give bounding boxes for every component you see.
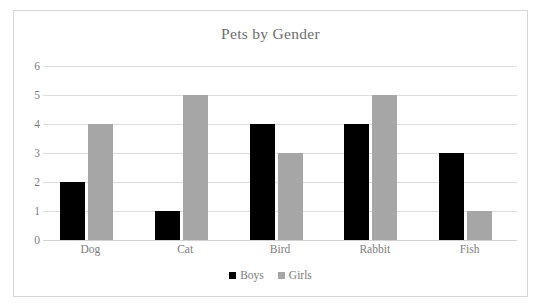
plot-area xyxy=(43,66,517,240)
legend-swatch-boys-icon xyxy=(229,272,236,279)
legend-item-girls[interactable]: Girls xyxy=(278,269,312,281)
legend-swatch-girls-icon xyxy=(278,272,285,279)
legend-label-boys: Boys xyxy=(240,269,264,281)
legend-item-boys[interactable]: Boys xyxy=(229,269,264,281)
x-tick-label-cat: Cat xyxy=(138,243,233,255)
bar-fish-girls xyxy=(467,211,492,240)
bar-cat-girls xyxy=(183,95,208,240)
bar-fish-boys xyxy=(439,153,464,240)
x-axis: DogCatBirdRabbitFish xyxy=(43,243,517,263)
bar-group-dog xyxy=(60,66,113,240)
bars-layer xyxy=(43,66,517,240)
bar-rabbit-girls xyxy=(372,95,397,240)
y-tick-label-3: 3 xyxy=(18,147,40,159)
chart-container: Pets by Gender 0123456 DogCatBirdRabbitF… xyxy=(13,10,528,297)
y-tick-label-4: 4 xyxy=(18,118,40,130)
y-tick-label-0: 0 xyxy=(18,234,40,246)
bar-group-rabbit xyxy=(344,66,397,240)
y-tick-label-6: 6 xyxy=(18,60,40,72)
bar-dog-girls xyxy=(88,124,113,240)
bar-cat-boys xyxy=(155,211,180,240)
bar-group-fish xyxy=(439,66,492,240)
y-axis: 0123456 xyxy=(14,66,40,240)
x-tick-label-bird: Bird xyxy=(233,243,328,255)
y-tick-label-5: 5 xyxy=(18,89,40,101)
y-tick-label-1: 1 xyxy=(18,205,40,217)
bar-dog-boys xyxy=(60,182,85,240)
bar-group-cat xyxy=(155,66,208,240)
chart-title: Pets by Gender xyxy=(14,25,527,43)
y-tick-label-2: 2 xyxy=(18,176,40,188)
x-tick-label-rabbit: Rabbit xyxy=(327,243,422,255)
bar-bird-girls xyxy=(278,153,303,240)
bar-group-bird xyxy=(250,66,303,240)
chart-legend: BoysGirls xyxy=(14,269,527,281)
legend-label-girls: Girls xyxy=(289,269,312,281)
x-tick-label-dog: Dog xyxy=(43,243,138,255)
bar-rabbit-boys xyxy=(344,124,369,240)
bar-bird-boys xyxy=(250,124,275,240)
x-tick-label-fish: Fish xyxy=(422,243,517,255)
